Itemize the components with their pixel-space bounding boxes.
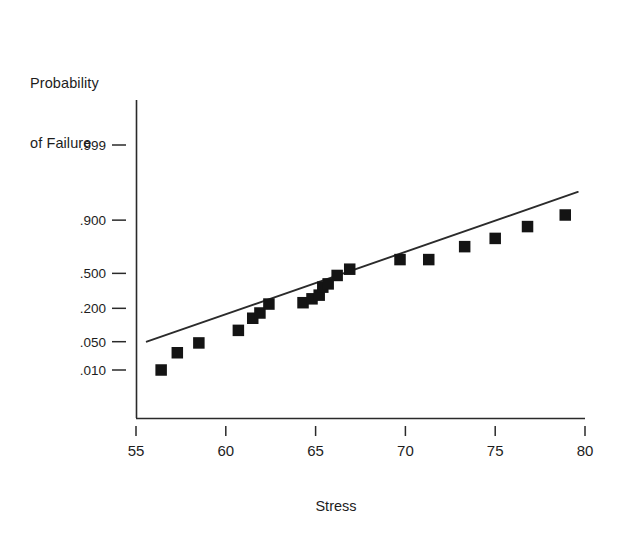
data-point-marker: [263, 298, 275, 310]
probability-plot-figure: Probability of Failure .999.900.500.200.…: [0, 0, 624, 538]
x-tick-label: 70: [397, 442, 414, 459]
data-point-marker: [423, 254, 435, 265]
plot-canvas: .999.900.500.200.050.010 556065707580: [0, 0, 624, 538]
y-tick-label: .200: [80, 301, 106, 316]
x-axis-title: Stress: [315, 498, 356, 514]
x-tick-label: 75: [487, 442, 504, 459]
data-point-marker: [331, 270, 343, 282]
fit-line-group: [147, 192, 578, 342]
fit-line: [147, 192, 578, 342]
x-tick-label: 60: [217, 442, 234, 459]
data-point-marker: [155, 364, 167, 376]
data-point-marker: [489, 233, 501, 245]
data-point-marker: [344, 263, 356, 275]
data-point-marker: [459, 241, 471, 253]
y-tick-label: .999: [80, 138, 106, 153]
x-axis-title-wrap: Stress: [0, 498, 624, 514]
data-point-marker: [522, 221, 534, 233]
data-point-group: [155, 209, 571, 375]
data-point-marker: [394, 254, 406, 265]
x-tick-label: 65: [307, 442, 324, 459]
y-tick-group: .999.900.500.200.050.010: [80, 138, 126, 378]
data-point-marker: [559, 209, 571, 221]
data-point-marker: [233, 325, 245, 337]
y-tick-label: .050: [80, 335, 106, 350]
data-point-marker: [193, 337, 205, 349]
plot-axes: [136, 100, 585, 419]
y-tick-label: .010: [80, 363, 106, 378]
x-tick-group: 556065707580: [128, 426, 594, 459]
y-tick-label: .500: [80, 266, 106, 281]
x-tick-label: 80: [577, 442, 594, 459]
y-tick-label: .900: [80, 213, 106, 228]
x-tick-label: 55: [128, 442, 145, 459]
data-point-marker: [172, 347, 184, 359]
